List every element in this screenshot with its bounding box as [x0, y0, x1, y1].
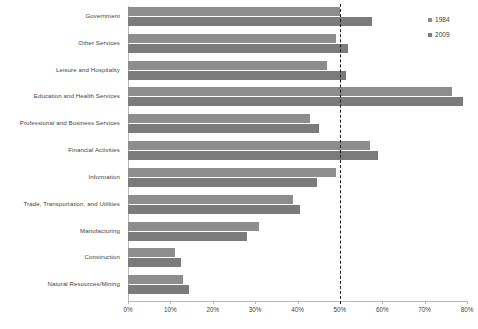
x-tick-label: 70% [418, 306, 431, 313]
bar-2009 [128, 258, 181, 267]
legend-item[interactable]: 2009 [428, 29, 474, 40]
bar-2009 [128, 178, 317, 187]
bar-group [128, 61, 467, 88]
x-tick-mark [255, 301, 256, 304]
bar-group [128, 195, 467, 222]
bar-group [128, 141, 467, 168]
legend-label: 1984 [435, 16, 450, 23]
bar-group [128, 275, 467, 302]
legend-item[interactable]: 1984 [428, 14, 474, 25]
x-tick-mark [298, 301, 299, 304]
bar-1984 [128, 141, 370, 150]
bar-2009 [128, 97, 463, 106]
x-tick-label: 0% [123, 306, 132, 313]
plot-area [128, 6, 467, 301]
category-label: Government [0, 12, 120, 20]
category-label: Manufacturing [0, 227, 120, 235]
category-label: Professional and Business Services [0, 119, 120, 127]
bar-group [128, 248, 467, 275]
bar-chart: GovernmentOther ServicesLeisure and Hosp… [0, 0, 478, 329]
bar-2009 [128, 205, 300, 214]
category-label: Construction [0, 253, 120, 261]
category-label: Trade, Transportation, and Utilities [0, 200, 120, 208]
bar-2009 [128, 285, 189, 294]
category-label: Financial Activities [0, 146, 120, 154]
x-tick-mark [425, 301, 426, 304]
category-label: Information [0, 173, 120, 181]
bar-1984 [128, 168, 336, 177]
bar-2009 [128, 44, 348, 53]
bar-1984 [128, 222, 259, 231]
category-label: Natural Resources/Mining [0, 280, 120, 288]
bar-1984 [128, 248, 175, 257]
bar-1984 [128, 61, 327, 70]
bar-group [128, 114, 467, 141]
x-tick-label: 80% [461, 306, 474, 313]
bar-group [128, 87, 467, 114]
reference-line-50pct [340, 4, 341, 304]
legend-label: 2009 [435, 31, 450, 38]
x-tick-mark [467, 301, 468, 304]
bar-2009 [128, 71, 346, 80]
bar-1984 [128, 7, 340, 16]
bar-2009 [128, 124, 319, 133]
bar-1984 [128, 195, 293, 204]
legend-swatch-icon [428, 18, 432, 22]
bar-1984 [128, 34, 336, 43]
bar-1984 [128, 87, 452, 96]
legend-swatch-icon [428, 33, 432, 37]
bar-2009 [128, 232, 247, 241]
x-tick-mark [128, 301, 129, 304]
x-tick-label: 20% [206, 306, 219, 313]
x-tick-label: 50% [334, 306, 347, 313]
bar-group [128, 222, 467, 249]
bar-group [128, 7, 467, 34]
bar-1984 [128, 275, 183, 284]
bar-2009 [128, 17, 372, 26]
x-tick-mark [382, 301, 383, 304]
x-tick-label: 30% [249, 306, 262, 313]
category-axis-labels: GovernmentOther ServicesLeisure and Hosp… [0, 6, 124, 301]
x-tick-mark [213, 301, 214, 304]
x-tick-label: 60% [376, 306, 389, 313]
bar-group [128, 168, 467, 195]
category-label: Other Services [0, 39, 120, 47]
chart-legend: 19842009 [428, 14, 474, 44]
x-tick-label: 40% [291, 306, 304, 313]
category-label: Education and Health Services [0, 92, 120, 100]
category-label: Leisure and Hospitality [0, 66, 120, 74]
x-tick-label: 10% [164, 306, 177, 313]
x-tick-mark [170, 301, 171, 304]
bar-1984 [128, 114, 310, 123]
bar-group [128, 34, 467, 61]
